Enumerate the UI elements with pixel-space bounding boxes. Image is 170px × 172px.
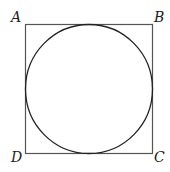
vertex-label-a: A [9, 9, 21, 25]
inscribed-circle [26, 25, 153, 154]
diagram-canvas: A B C D [0, 0, 170, 172]
vertex-label-b: B [153, 9, 164, 25]
vertex-label-c: C [154, 149, 165, 165]
vertex-label-d: D [10, 149, 22, 165]
